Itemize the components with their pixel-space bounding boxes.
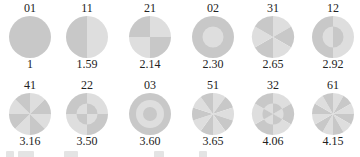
frequency-ratio-label: 3.50 [57, 135, 117, 147]
mode-label: 51 [183, 79, 243, 91]
mode-label: 01 [0, 2, 60, 14]
frequency-ratio-label: 2.92 [303, 58, 360, 70]
mode-cell: 614.15 [303, 77, 360, 147]
mode-cell: 022.30 [183, 0, 243, 70]
frequency-ratio-label: 3.16 [0, 135, 60, 147]
mode-cell: 011 [0, 0, 60, 70]
mode-cell: 312.65 [243, 0, 303, 70]
vibration-mode-disk-icon [8, 92, 52, 136]
mode-cell: 223.50 [57, 77, 117, 147]
mode-cell: 413.16 [0, 77, 60, 147]
mode-label: 22 [57, 79, 117, 91]
mode-label: 03 [120, 79, 180, 91]
mode-cell: 212.14 [120, 0, 180, 70]
vibration-mode-disk-icon [191, 92, 235, 136]
mode-label: 12 [303, 2, 360, 14]
vibration-mode-disk-icon [65, 92, 109, 136]
mode-cell: 513.65 [183, 77, 243, 147]
frequency-ratio-label: 1 [0, 58, 60, 70]
mode-label: 02 [183, 2, 243, 14]
frequency-ratio-label: 2.30 [183, 58, 243, 70]
mode-label: 31 [243, 2, 303, 14]
vibration-mode-disk-icon [311, 92, 355, 136]
mode-cell: 111.59 [57, 0, 117, 70]
vibration-mode-disk-icon [311, 15, 355, 59]
vibration-mode-disk-icon [8, 15, 52, 59]
mode-cell: 324.06 [243, 77, 303, 147]
vibration-mode-disk-icon [128, 92, 172, 136]
mode-label: 41 [0, 79, 60, 91]
vibration-mode-disk-icon [128, 15, 172, 59]
mode-label: 32 [243, 79, 303, 91]
vibration-mode-disk-icon [65, 15, 109, 59]
mode-cell: 122.92 [303, 0, 360, 70]
vibration-mode-disk-icon [251, 92, 295, 136]
frequency-ratio-label: 4.15 [303, 135, 360, 147]
vibration-mode-disk-icon [191, 15, 235, 59]
frequency-ratio-label: 2.65 [243, 58, 303, 70]
frequency-ratio-label: 3.60 [120, 135, 180, 147]
frequency-ratio-label: 1.59 [57, 58, 117, 70]
vibration-mode-disk-icon [251, 15, 295, 59]
mode-label: 11 [57, 2, 117, 14]
mode-label: 61 [303, 79, 360, 91]
frequency-ratio-label: 4.06 [243, 135, 303, 147]
frequency-ratio-label: 3.65 [183, 135, 243, 147]
mode-label: 21 [120, 2, 180, 14]
frequency-ratio-label: 2.14 [120, 58, 180, 70]
mode-cell: 033.60 [120, 77, 180, 147]
clipped-caption [4, 151, 356, 157]
